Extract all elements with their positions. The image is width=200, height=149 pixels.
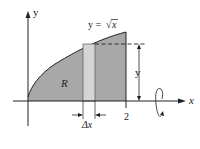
- height-arrow-down-icon: [137, 96, 141, 101]
- solid-of-revolution-diagram: y x y = √ x R y 2 Δx: [0, 0, 200, 149]
- x-tick-label-2: 2: [124, 111, 129, 122]
- y-axis-arrow-icon: [26, 11, 31, 18]
- rotation-arrow-back: [161, 89, 163, 99]
- rotation-arrowhead-icon: [160, 111, 164, 116]
- region-r: [28, 32, 126, 101]
- x-axis-arrow-icon: [178, 99, 186, 104]
- delta-x-label: Δx: [81, 119, 93, 130]
- height-label: y: [135, 66, 141, 78]
- delta-x-strip: [83, 44, 95, 101]
- height-arrow-up-icon: [137, 44, 141, 49]
- delta-x-right-arrow-icon: [95, 113, 100, 117]
- curve-equation-arg: x: [111, 19, 117, 30]
- y-axis-label: y: [33, 6, 39, 18]
- rotation-arrow-icon: [156, 88, 161, 116]
- curve-equation-lhs: y =: [88, 19, 102, 30]
- region-label: R: [60, 77, 68, 89]
- x-axis-label: x: [188, 94, 194, 106]
- delta-x-left-arrow-icon: [78, 113, 83, 117]
